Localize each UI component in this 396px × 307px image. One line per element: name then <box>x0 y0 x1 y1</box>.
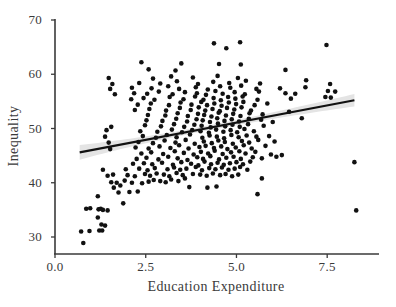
data-point <box>157 89 162 94</box>
data-point <box>232 90 237 95</box>
data-point <box>192 141 197 146</box>
data-point <box>200 168 205 173</box>
data-point <box>333 89 338 94</box>
data-point <box>265 101 270 106</box>
data-point <box>260 112 265 117</box>
data-point <box>206 151 211 156</box>
data-point <box>229 117 234 122</box>
data-point <box>245 167 250 172</box>
data-point <box>166 84 171 89</box>
fit-line <box>80 100 355 152</box>
data-point <box>201 97 206 102</box>
data-point <box>179 61 184 66</box>
data-point <box>159 124 164 129</box>
data-point <box>137 81 142 86</box>
data-point <box>152 97 157 102</box>
data-point <box>165 167 170 172</box>
data-point <box>212 101 217 106</box>
data-point <box>145 91 150 96</box>
data-point <box>201 157 206 162</box>
data-point <box>237 125 242 130</box>
data-point <box>195 91 200 96</box>
data-point <box>114 180 119 185</box>
data-point <box>236 76 241 81</box>
data-point <box>194 117 199 122</box>
data-point <box>224 46 229 51</box>
data-point <box>289 96 294 101</box>
data-point <box>178 106 183 111</box>
data-point <box>229 150 234 155</box>
data-point <box>87 229 92 234</box>
data-point <box>203 108 208 113</box>
data-point <box>214 127 219 132</box>
data-point <box>214 184 219 189</box>
data-point <box>226 95 231 100</box>
data-point <box>118 183 123 188</box>
data-point <box>146 179 151 184</box>
data-point <box>205 185 210 190</box>
data-point <box>354 208 359 213</box>
data-point <box>261 123 266 128</box>
data-point <box>218 84 223 89</box>
data-point <box>141 96 146 101</box>
data-point <box>235 130 240 135</box>
data-point <box>211 171 216 176</box>
data-point <box>232 107 237 112</box>
data-point <box>241 100 246 105</box>
data-point <box>149 150 154 155</box>
data-point <box>293 91 298 96</box>
data-point <box>219 98 224 103</box>
data-point <box>326 89 331 94</box>
data-point <box>181 97 186 102</box>
data-point <box>283 68 288 73</box>
axes-group <box>51 19 379 258</box>
data-point <box>81 241 86 246</box>
data-point <box>139 60 144 65</box>
data-point <box>228 128 233 133</box>
data-point <box>178 167 183 172</box>
data-point <box>169 74 174 79</box>
data-point <box>104 128 109 133</box>
data-point <box>116 190 121 195</box>
data-point <box>231 141 236 146</box>
data-point <box>146 113 151 118</box>
data-point <box>161 152 166 157</box>
data-point <box>111 185 116 190</box>
data-point <box>174 116 179 121</box>
data-point <box>223 172 228 177</box>
data-point <box>228 86 233 91</box>
data-point <box>243 92 248 97</box>
data-point <box>172 122 177 127</box>
data-point <box>185 158 190 163</box>
data-point <box>225 147 230 152</box>
data-point <box>255 97 260 102</box>
data-point <box>209 114 214 119</box>
data-point <box>101 208 106 213</box>
data-point <box>179 160 184 165</box>
data-point <box>197 145 202 150</box>
data-point <box>220 152 225 157</box>
data-point <box>198 172 203 177</box>
data-point <box>211 80 216 85</box>
data-point <box>204 93 209 98</box>
data-point <box>215 116 220 121</box>
data-point <box>196 82 201 87</box>
data-point <box>239 105 244 110</box>
y-axis-title: Inequality <box>6 106 22 167</box>
data-point <box>217 157 222 162</box>
data-point <box>186 146 191 151</box>
data-point <box>111 172 116 177</box>
data-point <box>170 92 175 97</box>
data-point <box>151 141 156 146</box>
data-point <box>135 189 140 194</box>
data-point <box>177 87 182 92</box>
data-point <box>166 154 171 159</box>
data-point <box>121 201 126 206</box>
data-point <box>142 161 147 166</box>
data-point <box>99 222 104 227</box>
data-point <box>105 173 110 178</box>
data-point <box>269 152 274 157</box>
data-point <box>177 143 182 148</box>
data-point <box>222 119 227 124</box>
data-point <box>106 140 111 145</box>
